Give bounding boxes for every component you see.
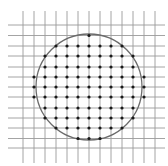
lattice-point [32,85,35,88]
lattice-point [109,44,112,47]
lattice-point [98,75,101,78]
lattice-point [120,126,123,129]
lattice-point [131,54,134,57]
lattice-point [131,75,134,78]
lattice-point [54,116,57,119]
lattice-point [98,126,101,129]
lattice-point [43,85,46,88]
lattice-point [76,54,79,57]
lattice-point [76,116,79,119]
lattice-point [43,54,46,57]
lattice-point [54,126,57,129]
lattice-point [87,85,90,88]
lattice-point [76,85,79,88]
lattice-point [120,44,123,47]
lattice-point [54,95,57,98]
lattice-point [120,85,123,88]
lattice-point [142,85,145,88]
lattice-point [65,75,68,78]
lattice-point [43,116,46,119]
lattice-point [87,54,90,57]
lattice-point [98,44,101,47]
lattice-point [65,65,68,68]
lattice-point [76,106,79,109]
lattice-point [109,106,112,109]
lattice-point [131,106,134,109]
lattice-point [87,75,90,78]
lattice-point [98,95,101,98]
lattice-point [98,65,101,68]
lattice-point [43,75,46,78]
lattice-point [32,75,35,78]
lattice-point [87,116,90,119]
lattice-point [65,85,68,88]
lattice-point [120,75,123,78]
lattice-point [65,44,68,47]
lattice-point [65,116,68,119]
lattice-point [65,54,68,57]
lattice-point [109,116,112,119]
lattice-point [87,106,90,109]
lattice-point [109,54,112,57]
lattice-point [54,44,57,47]
diagram-canvas [0,0,168,166]
lattice-point [142,75,145,78]
lattice-point [65,95,68,98]
lattice-point [131,85,134,88]
lattice-point [131,95,134,98]
lattice-point [65,126,68,129]
lattice-point [109,126,112,129]
lattice-point [131,116,134,119]
lattice-point [120,106,123,109]
lattice-point [109,95,112,98]
lattice-point [87,137,90,140]
lattice-point [87,95,90,98]
lattice-point [98,116,101,119]
lattice-circle-diagram [0,0,168,166]
lattice-point [120,54,123,57]
lattice-point [54,65,57,68]
lattice-point [109,85,112,88]
lattice-point [98,137,101,140]
lattice-point [76,126,79,129]
lattice-point [54,106,57,109]
lattice-point [54,54,57,57]
lattice-point [76,95,79,98]
lattice-point [98,85,101,88]
lattice-point [76,44,79,47]
lattice-point [120,65,123,68]
lattice-point [32,95,35,98]
lattice-point [109,65,112,68]
lattice-point [76,75,79,78]
lattice-point [87,34,90,37]
lattice-point [98,106,101,109]
lattice-point [120,95,123,98]
lattice-point [120,116,123,119]
lattice-point [87,126,90,129]
lattice-point [43,106,46,109]
lattice-point [98,54,101,57]
lattice-point [87,44,90,47]
lattice-point [54,75,57,78]
lattice-point [109,75,112,78]
lattice-point [65,106,68,109]
lattice-point [54,85,57,88]
lattice-point [87,65,90,68]
lattice-point [76,137,79,140]
lattice-point [76,65,79,68]
lattice-point [131,65,134,68]
lattice-point [43,65,46,68]
lattice-point [43,95,46,98]
lattice-point [142,95,145,98]
